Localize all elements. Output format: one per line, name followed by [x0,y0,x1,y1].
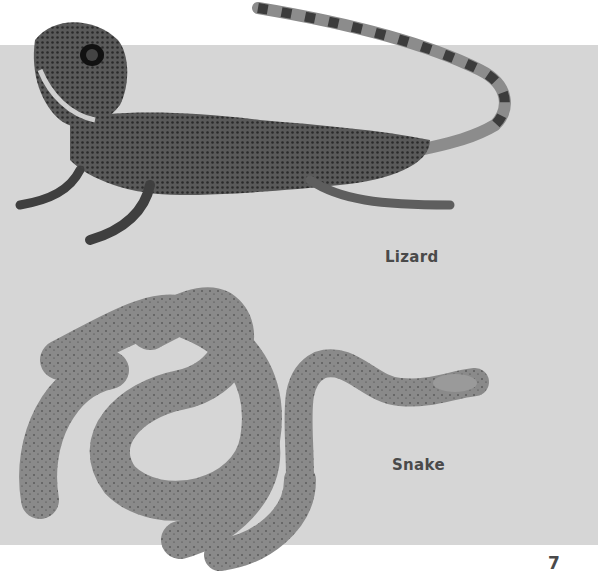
snake-photo [38,307,477,555]
lizard-label: Lizard [385,248,439,266]
reptile-illustrations [0,0,598,575]
lizard-photo [20,8,505,240]
snake-label: Snake [392,456,445,474]
page-number: 7 [548,553,560,573]
